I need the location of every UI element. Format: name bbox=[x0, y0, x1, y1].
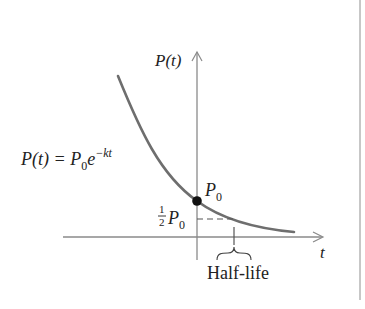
y-axis-label: P(t) bbox=[154, 51, 182, 70]
decay-diagram: P(t) t P0 1 2 P0 Half-life P(t) = P0e−kt bbox=[0, 0, 365, 309]
half-life-label: Half-life bbox=[207, 263, 269, 283]
y-axis bbox=[192, 52, 202, 260]
decay-equation: P(t) = P0e−kt bbox=[20, 146, 113, 173]
x-axis-label: t bbox=[320, 243, 326, 262]
initial-value-dot bbox=[192, 196, 202, 206]
svg-text:2: 2 bbox=[159, 216, 165, 228]
half-life-brace-icon bbox=[217, 247, 251, 260]
half-value-label: 1 2 P0 bbox=[158, 203, 185, 232]
svg-text:1: 1 bbox=[159, 203, 165, 215]
x-axis bbox=[63, 232, 323, 242]
decay-curve bbox=[118, 76, 294, 232]
svg-text:P0: P0 bbox=[167, 208, 185, 232]
initial-value-label: P0 bbox=[204, 180, 222, 204]
